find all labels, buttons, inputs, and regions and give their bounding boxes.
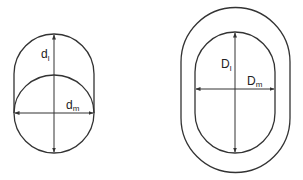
diagram-canvas: dl dm Dl Dm bbox=[0, 0, 303, 180]
right-vertical-label: Dl bbox=[221, 57, 232, 73]
left-vertical-label: dl bbox=[41, 47, 50, 63]
left-figure: dl dm bbox=[14, 34, 94, 153]
right-figure: Dl Dm bbox=[181, 7, 290, 172]
right-horizontal-label: Dm bbox=[247, 74, 263, 89]
left-horizontal-label: dm bbox=[66, 98, 80, 113]
